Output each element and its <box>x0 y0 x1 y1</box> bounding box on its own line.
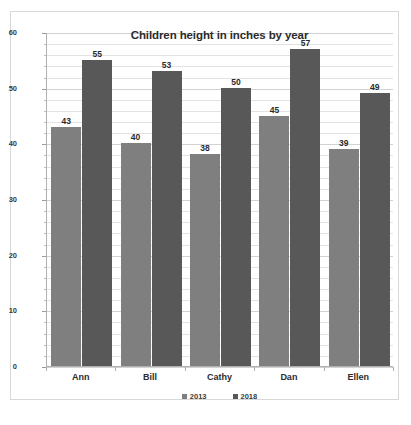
legend-label: 2013 <box>190 393 207 401</box>
x-axis-tick <box>324 367 325 371</box>
bar-value-label: 45 <box>254 106 294 115</box>
y-axis-tick-label: 50 <box>0 85 17 93</box>
legend-item-2013[interactable]: 2013 <box>182 393 207 401</box>
bar-dan-2018 <box>290 49 320 366</box>
chart-legend: 20132018 <box>46 393 393 401</box>
plot-area: 43554053385045573949 <box>46 33 393 367</box>
bar-bill-2018 <box>152 71 182 366</box>
bar-cathy-2013 <box>190 154 220 366</box>
x-axis-label-ann: Ann <box>46 373 116 382</box>
y-axis-tick-label: 0 <box>0 363 17 371</box>
legend-swatch-icon <box>233 394 238 399</box>
y-axis-tick-label: 10 <box>0 308 17 316</box>
x-axis-tick <box>115 367 116 371</box>
bar-ann-2013 <box>51 127 81 366</box>
x-axis-tick <box>46 367 47 371</box>
bar-value-label: 49 <box>355 83 395 92</box>
x-axis-label-dan: Dan <box>254 373 324 382</box>
bar-value-label: 39 <box>324 139 364 148</box>
bar-ann-2018 <box>82 60 112 366</box>
gridline <box>47 367 393 368</box>
bar-value-label: 40 <box>116 133 156 142</box>
bar-value-label: 43 <box>46 117 86 126</box>
x-axis-tick <box>254 367 255 371</box>
y-axis-tick-label: 30 <box>0 196 17 204</box>
bar-value-label: 50 <box>216 78 256 87</box>
bar-value-label: 53 <box>147 61 187 70</box>
bar-cathy-2018 <box>221 88 251 366</box>
chart-title: Children height in inches by year <box>46 29 393 41</box>
x-axis-label-cathy: Cathy <box>185 373 255 382</box>
bar-value-label: 55 <box>77 50 117 59</box>
x-axis-tick <box>185 367 186 371</box>
y-axis-tick-label: 60 <box>0 29 17 37</box>
legend-label: 2018 <box>241 393 258 401</box>
bar-ellen-2018 <box>360 93 390 366</box>
x-axis-label-bill: Bill <box>115 373 185 382</box>
chart-card: Children height in inches by year 010203… <box>10 11 399 400</box>
bar-value-label: 38 <box>185 144 225 153</box>
y-axis-tick-label: 20 <box>0 252 17 260</box>
y-axis-tick-label: 40 <box>0 141 17 149</box>
bar-ellen-2013 <box>329 149 359 366</box>
x-axis-label-ellen: Ellen <box>323 373 393 382</box>
gridline <box>47 44 393 45</box>
bar-bill-2013 <box>121 143 151 366</box>
x-axis-tick <box>393 367 394 371</box>
legend-item-2018[interactable]: 2018 <box>233 393 258 401</box>
legend-swatch-icon <box>182 394 187 399</box>
bar-dan-2013 <box>259 116 289 367</box>
